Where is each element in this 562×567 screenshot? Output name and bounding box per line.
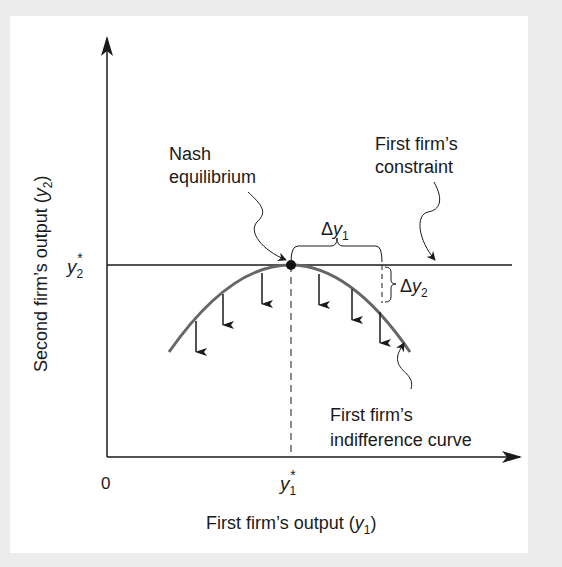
- constraint-label-line2: constraint: [375, 157, 453, 177]
- indifference-curve: [169, 265, 410, 352]
- delta-y2-label: Δy2: [400, 276, 428, 300]
- delta-y1-label: Δy1: [321, 219, 349, 243]
- indiff-label-line1: First firm’s: [330, 405, 413, 425]
- nash-leader-arrow: [248, 192, 286, 260]
- nash-label-line1: Nash: [169, 144, 211, 164]
- duopoly-diagram: Nash equilibrium First firm’s constraint…: [0, 0, 562, 567]
- y-axis-title: Second firm’s output (y2): [31, 176, 55, 372]
- constraint-leader-arrow: [420, 182, 440, 260]
- y2-star-label: y2*: [65, 250, 84, 281]
- delta-y1-brace: [291, 238, 382, 262]
- x-axis-title: First firm’s output (y1): [206, 513, 376, 537]
- downward-arrows: [196, 273, 380, 352]
- origin-label: 0: [101, 474, 110, 493]
- delta-y2-brace: [385, 267, 396, 302]
- constraint-label-line1: First firm’s: [375, 134, 458, 154]
- y1-star-label: y1*: [278, 467, 297, 498]
- nash-label-line2: equilibrium: [169, 167, 256, 187]
- indiff-label-line2: indifference curve: [330, 430, 472, 450]
